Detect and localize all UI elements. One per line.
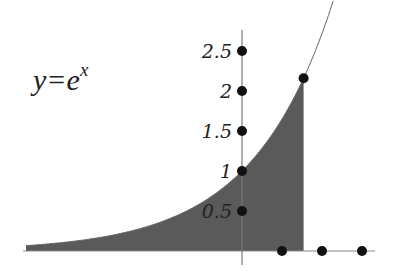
x-tick-dot: [317, 246, 327, 256]
highlight-point: [299, 73, 309, 83]
y-tick-label: 1.5: [202, 120, 232, 142]
exp-chart: 0.511.522.5 y=ex: [0, 0, 393, 279]
y-tick-dot: [237, 166, 247, 176]
y-tick-label: 0.5: [202, 200, 232, 222]
y-tick-label: 1: [220, 160, 232, 182]
y-tick-dot: [237, 86, 247, 96]
x-tick-dot: [357, 246, 367, 256]
equation-label: y=ex: [30, 59, 89, 96]
y-tick-dot: [237, 46, 247, 56]
y-tick-dot: [237, 206, 247, 216]
y-tick-dot: [237, 126, 247, 136]
x-tick-dot: [277, 246, 287, 256]
shaded-area: [26, 78, 304, 251]
y-tick-label: 2.5: [201, 40, 232, 62]
y-tick-label: 2: [219, 80, 232, 102]
